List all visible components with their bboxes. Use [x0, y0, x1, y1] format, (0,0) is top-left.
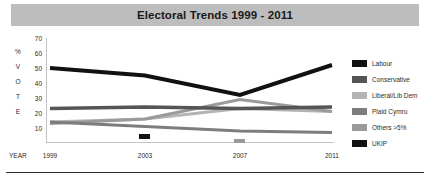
y-tick-70: 70 [28, 35, 42, 42]
chart-title-band: Electoral Trends 1999 - 2011 [11, 4, 419, 26]
y-tick-50: 50 [28, 65, 42, 72]
legend-label-plaid-cymru: Plaid Cymru [372, 108, 407, 115]
y-tick-30: 30 [28, 95, 42, 102]
legend-swatch-icon-liberal [352, 92, 367, 99]
y-axis-letter-v: V [12, 63, 24, 70]
legend-label-labour: Labour [372, 60, 392, 67]
legend-swatch-icon-labour [352, 60, 367, 67]
x-tick-2011: 2011 [312, 152, 352, 159]
page-title: Electoral Trends 1999 - 2011 [137, 9, 293, 21]
legend-item-labour: Labour [352, 55, 430, 71]
footer-divider [6, 172, 424, 173]
ukip-marker-2003 [139, 134, 150, 139]
legend-label-others: Others >5% [372, 124, 407, 131]
y-axis-letter-t: T [12, 93, 24, 100]
series-line-labour [50, 65, 332, 95]
series-line-plaid [50, 122, 332, 133]
legend-item-liberal: Liberal/Lib Dem [352, 87, 430, 103]
legend-swatch-icon-others [352, 124, 367, 131]
y-tick-10: 10 [28, 125, 42, 132]
y-tick-20: 20 [28, 110, 42, 117]
electoral-trends-figure: Electoral Trends 1999 - 2011 % V O T E 1… [0, 0, 430, 177]
legend-swatch-icon-ukip [352, 140, 367, 147]
y-axis-letter-percent: % [12, 48, 24, 55]
line-chart-svg [46, 38, 334, 143]
legend-label-conservative: Conservative [372, 76, 410, 83]
x-axis-title: YEAR [9, 152, 27, 159]
x-tick-2003: 2003 [125, 152, 165, 159]
legend-item-others: Others >5% [352, 119, 430, 135]
ukip-marker-2007 [234, 139, 245, 143]
legend-swatch-icon-conservative [352, 76, 367, 83]
y-axis-letter-e: E [12, 108, 24, 115]
y-tick-40: 40 [28, 80, 42, 87]
x-tick-1999: 1999 [30, 152, 70, 159]
y-axis-letter-o: O [12, 78, 24, 85]
legend-item-conservative: Conservative [352, 71, 430, 87]
legend-label-ukip: UKIP [372, 140, 387, 147]
legend-label-liberal: Liberal/Lib Dem [372, 92, 418, 99]
plot-area [46, 38, 334, 143]
series-line-conservative [50, 107, 332, 109]
legend-swatch-icon-plaid-cymru [352, 108, 367, 115]
legend-item-ukip: UKIP [352, 135, 430, 151]
chart-legend: Labour Conservative Liberal/Lib Dem Plai… [352, 55, 430, 151]
legend-item-plaid-cymru: Plaid Cymru [352, 103, 430, 119]
x-tick-2007: 2007 [220, 152, 260, 159]
y-tick-60: 60 [28, 50, 42, 57]
